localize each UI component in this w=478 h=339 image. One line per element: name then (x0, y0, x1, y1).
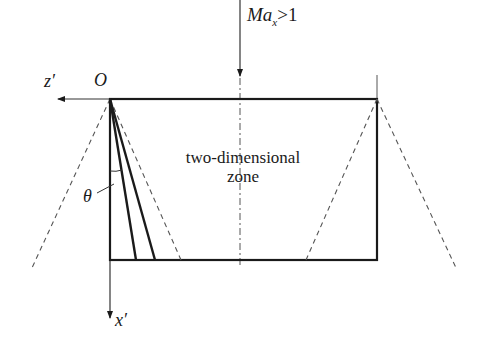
inflow-label-relation: >1 (277, 4, 297, 25)
inflow-label-main: Ma (247, 4, 272, 25)
theta-arc (110, 170, 122, 171)
theta-label: θ (83, 186, 92, 207)
zone-label-line-1: two-dimensional (168, 148, 318, 167)
z-axis-label: z′ (44, 71, 55, 92)
right-mach-line-outer (377, 99, 457, 270)
left-mach-line-outer (31, 99, 110, 270)
inflow-label: Max>1 (247, 4, 297, 28)
origin-label: O (94, 70, 107, 91)
zone-label-line-2: zone (168, 167, 318, 186)
zone-label: two-dimensional zone (168, 148, 318, 186)
theta-leader-line (97, 184, 114, 193)
x-axis-label: x′ (115, 310, 127, 331)
